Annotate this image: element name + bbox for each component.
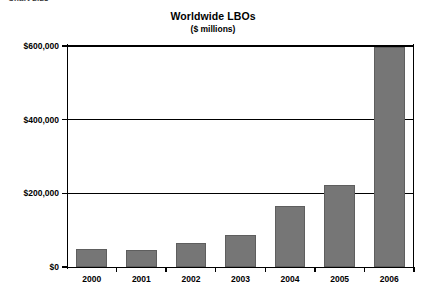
chart-subtitle: ($ millions)	[0, 24, 426, 34]
plot-area	[67, 46, 414, 267]
y-axis-label: $600,000	[0, 41, 59, 51]
bar-2005	[324, 185, 355, 267]
y-axis-label: $0	[0, 262, 59, 272]
x-axis-tick	[215, 267, 216, 272]
x-axis-label-2006: 2006	[359, 274, 419, 284]
bar-2003	[225, 235, 256, 267]
y-axis-labels: $0$200,000$400,000$600,000	[0, 0, 59, 295]
chart-title: Worldwide LBOs	[0, 10, 426, 22]
x-axis-tick	[364, 267, 365, 272]
bar-2006	[374, 47, 405, 267]
bar-2002	[176, 243, 207, 267]
y-axis-label: $200,000	[0, 188, 59, 198]
y-axis-label: $400,000	[0, 115, 59, 125]
bar-2001	[126, 250, 157, 267]
x-axis-tick	[413, 267, 414, 272]
x-axis-tick	[165, 267, 166, 272]
x-axis-tick	[265, 267, 266, 272]
bar-2004	[275, 206, 306, 267]
bar-2000	[76, 249, 107, 267]
x-axis-tick	[116, 267, 117, 272]
x-axis-tick	[314, 267, 315, 272]
